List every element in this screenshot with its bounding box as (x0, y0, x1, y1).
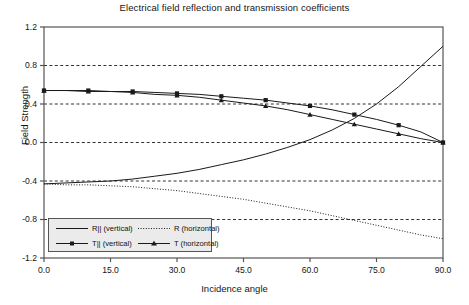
y-tick-label: -0.8 (5, 214, 37, 224)
x-tick-label: 15.0 (91, 265, 131, 275)
legend-label-t-horizontal: T (horizontal) (174, 239, 219, 248)
y-axis-title: Field Strength (19, 66, 30, 166)
y-tick-label: 0.8 (5, 60, 37, 70)
x-tick-label: 30.0 (157, 265, 197, 275)
legend-label-r-horizontal: R (horizontal) (174, 224, 220, 233)
y-tick-label: 0.0 (5, 137, 37, 147)
x-axis-title: Incidence angle (0, 283, 469, 294)
series-marker-square (397, 123, 401, 127)
series-line-0 (44, 46, 443, 184)
series-marker-square (264, 98, 268, 102)
legend-entry-t-vertical: T|| (vertical) (55, 239, 132, 248)
chart-container: Electrical field reflection and transmis… (0, 0, 469, 305)
y-tick-label: 1.2 (5, 22, 37, 32)
plot-area (0, 0, 469, 305)
legend-swatch-dotted-line (137, 224, 171, 233)
y-tick-label: 0.4 (5, 99, 37, 109)
chart-legend: R|| (vertical) R (horizontal) T|| (verti… (48, 218, 212, 252)
legend-swatch-solid-line (55, 224, 89, 233)
x-tick-label: 60.0 (290, 265, 330, 275)
series-marker-square (308, 104, 312, 108)
legend-label-t-vertical: T|| (vertical) (92, 239, 132, 248)
series-marker-square (352, 112, 356, 116)
legend-entry-r-horizontal: R (horizontal) (137, 224, 220, 233)
x-tick-label: 75.0 (357, 265, 397, 275)
x-tick-label: 90.0 (423, 265, 463, 275)
x-tick-label: 0.0 (24, 265, 64, 275)
x-tick-label: 45.0 (224, 265, 264, 275)
y-tick-label: -0.4 (5, 176, 37, 186)
legend-swatch-triangle-marker-line (137, 239, 171, 248)
legend-entry-t-horizontal: T (horizontal) (137, 239, 219, 248)
y-tick-label: -1.2 (5, 253, 37, 263)
legend-entry-r-vertical: R|| (vertical) (55, 224, 133, 233)
legend-label-r-vertical: R|| (vertical) (92, 224, 133, 233)
legend-swatch-square-marker-line (55, 239, 89, 248)
